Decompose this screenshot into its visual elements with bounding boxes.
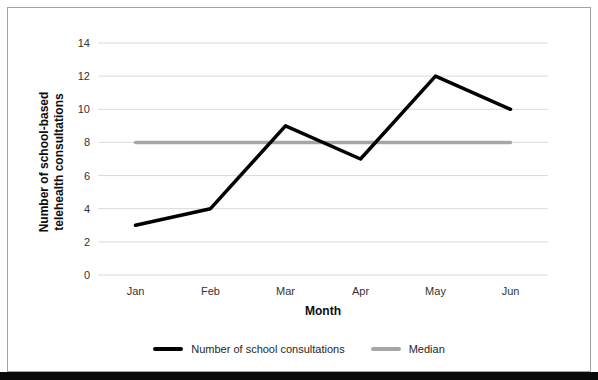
legend-label: Number of school consultations xyxy=(191,342,344,356)
y-tick-label: 2 xyxy=(40,236,90,248)
y-tick-label: 6 xyxy=(40,170,90,182)
x-tick-label: Feb xyxy=(173,284,248,298)
y-tick-label: 14 xyxy=(40,37,90,49)
x-tick-label: Mar xyxy=(248,284,323,298)
x-tick-label: Apr xyxy=(323,284,398,298)
y-tick-label: 12 xyxy=(40,70,90,82)
line-swatch-icon xyxy=(371,347,401,351)
legend-item-median: Median xyxy=(371,342,445,356)
legend-item-consultations: Number of school consultations xyxy=(153,342,344,356)
x-axis-title: Month xyxy=(98,304,548,318)
line-chart-plot-area xyxy=(0,0,598,380)
chart-legend: Number of school consultations Median xyxy=(0,341,598,357)
legend-label: Median xyxy=(409,342,445,356)
bottom-black-bar xyxy=(0,372,598,380)
y-tick-label: 0 xyxy=(40,269,90,281)
x-tick-label: Jan xyxy=(98,284,173,298)
y-tick-label: 4 xyxy=(40,203,90,215)
y-tick-label: 8 xyxy=(40,136,90,148)
x-tick-label: May xyxy=(398,284,473,298)
line-swatch-icon xyxy=(153,347,183,351)
x-tick-label: Jun xyxy=(473,284,548,298)
chart-figure: Number of school-based telehealth consul… xyxy=(0,0,598,380)
y-tick-label: 10 xyxy=(40,103,90,115)
